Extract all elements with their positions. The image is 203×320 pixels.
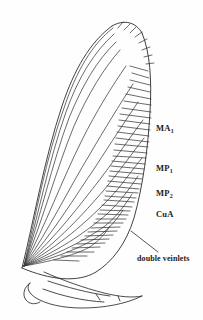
vein-label-mp1-subscript: 1 xyxy=(170,168,173,174)
anal-lobe-margin xyxy=(28,283,142,308)
annotation-label-double-veinlets: double veinlets xyxy=(137,255,189,263)
vein-label-mp2-subscript: 2 xyxy=(170,193,173,199)
vein-label-mp2: MP2 xyxy=(156,189,173,198)
veinlet xyxy=(54,260,79,261)
vein-label-mp2-base: MP xyxy=(156,188,170,198)
vein-mp2 xyxy=(24,158,142,266)
veinlet xyxy=(108,181,141,184)
veinlet xyxy=(115,144,148,147)
vein-label-cua: CuA xyxy=(156,210,174,219)
anal-lobe-crossvein-2 xyxy=(118,296,120,301)
veinlet xyxy=(130,66,148,71)
veinlet xyxy=(81,239,109,240)
veinlet xyxy=(124,101,151,105)
anal-lobe-crossvein-1 xyxy=(96,294,100,300)
vein-subcosta xyxy=(24,34,114,266)
veinlet xyxy=(135,32,142,37)
anal-lobe-basal-hook xyxy=(24,283,40,304)
wing-outline-group xyxy=(22,22,151,279)
veinlet xyxy=(114,150,147,153)
veinlet xyxy=(116,138,149,142)
veinlet xyxy=(72,247,100,248)
vein-label-ma1-base: MA xyxy=(156,123,171,133)
veinlet xyxy=(111,166,144,169)
vein-r1 xyxy=(24,42,116,266)
veinlet xyxy=(98,214,128,215)
double-veinlets-leader-line xyxy=(131,231,158,252)
veinlet xyxy=(100,210,130,211)
veinlet xyxy=(85,235,113,236)
marginal-veinlets-group xyxy=(54,22,154,261)
veinlet xyxy=(118,126,150,130)
veinlet xyxy=(122,108,151,112)
veinlet xyxy=(77,243,105,244)
vein-label-ma1: MA1 xyxy=(156,124,174,133)
longitudinal-veins-group xyxy=(24,28,144,266)
veinlet xyxy=(130,27,136,33)
vein-label-cua-base: CuA xyxy=(156,209,174,219)
wing-venation-figure: MA1 MP1 MP2 CuA double veinlets xyxy=(0,0,203,320)
veinlet xyxy=(128,87,150,92)
vein-label-ma1-subscript: 1 xyxy=(171,128,174,134)
veinlet xyxy=(124,24,130,30)
vein-mp1 xyxy=(24,138,144,266)
leader-line-group xyxy=(131,231,158,252)
veinlet xyxy=(102,205,132,207)
vein-rs xyxy=(24,50,120,266)
veinlet xyxy=(142,47,150,50)
veinlet xyxy=(139,39,147,43)
veinlet xyxy=(126,94,151,99)
veinlet xyxy=(107,186,139,189)
veinlet xyxy=(112,161,145,164)
wing-diagram-svg xyxy=(0,0,203,320)
veinlet xyxy=(117,132,149,136)
veinlet xyxy=(132,73,149,78)
vein-label-mp1-base: MP xyxy=(156,163,170,173)
apex-outline xyxy=(112,22,142,33)
veinlet xyxy=(146,63,154,64)
veinlet xyxy=(120,114,151,118)
veinlet xyxy=(88,231,117,232)
veinlet xyxy=(91,227,120,228)
vein-a1 xyxy=(24,210,123,266)
vein-label-mp1: MP1 xyxy=(156,164,173,173)
posterior-margin-outline xyxy=(22,33,151,279)
veinlet xyxy=(106,191,138,193)
vein-ma1 xyxy=(24,84,133,266)
veinlet xyxy=(110,171,143,174)
